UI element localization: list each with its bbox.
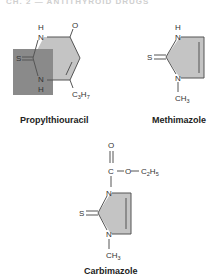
atom-s: S xyxy=(16,54,21,63)
atom-n: N xyxy=(38,33,44,42)
molecule-name: Methimazole xyxy=(152,115,206,125)
substituent-ethyl: C2H5 xyxy=(141,167,159,177)
methimazole-structure: H N S N CH3 Methimazole xyxy=(147,23,206,125)
atom-c: C xyxy=(108,167,114,176)
atom-o: O xyxy=(108,141,114,150)
chemical-structures-diagram: H N O S N H C3H7 Propylthiouracil H N S … xyxy=(0,0,220,277)
atom-n: N xyxy=(106,189,112,198)
atom-h: H xyxy=(38,23,44,32)
atom-n: N xyxy=(175,74,181,83)
atom-h: H xyxy=(175,23,181,32)
atom-n: N xyxy=(175,33,181,42)
atom-s: S xyxy=(147,53,152,62)
atom-o: O xyxy=(125,167,131,176)
atom-n: N xyxy=(106,230,112,239)
atom-s: S xyxy=(79,209,84,218)
substituent-methyl: CH3 xyxy=(106,251,121,261)
ring-fill xyxy=(166,37,204,78)
atom-n: N xyxy=(38,75,44,84)
atom-h: H xyxy=(38,85,44,94)
carbimazole-structure: O C O C2H5 N S N CH3 Carbimazole xyxy=(79,141,159,276)
propylthiouracil-structure: H N O S N H C3H7 Propylthiouracil xyxy=(13,21,90,125)
substituent-propyl: C3H7 xyxy=(72,90,90,100)
substituent-methyl: CH3 xyxy=(175,94,190,104)
molecule-name: Propylthiouracil xyxy=(20,115,89,125)
molecule-name: Carbimazole xyxy=(84,266,138,276)
atom-o: O xyxy=(72,21,78,30)
